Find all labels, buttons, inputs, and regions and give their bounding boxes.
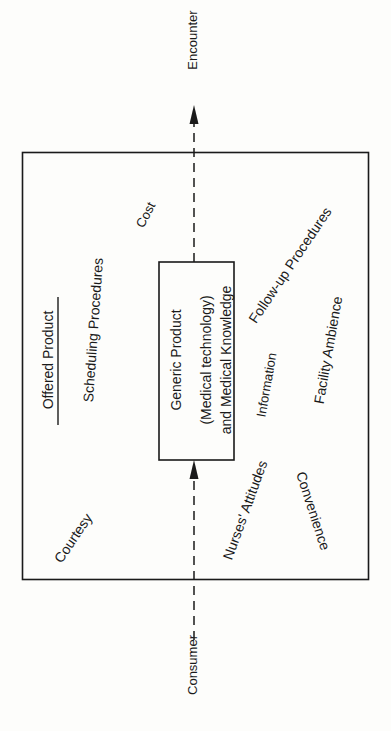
encounter-label: Encounter	[186, 7, 200, 73]
consumer-label: Consumer	[186, 632, 200, 698]
offered-product-title: Offered Product	[41, 300, 55, 420]
generic-product-line2: (Medical technology)	[199, 280, 213, 440]
generic-product-line1: Generic Product	[169, 300, 183, 420]
arrow-into-generic-product-icon	[190, 460, 199, 479]
generic-product-line3: and Medical Knowledge	[219, 270, 233, 450]
arrow-to-encounter-icon	[190, 105, 199, 124]
